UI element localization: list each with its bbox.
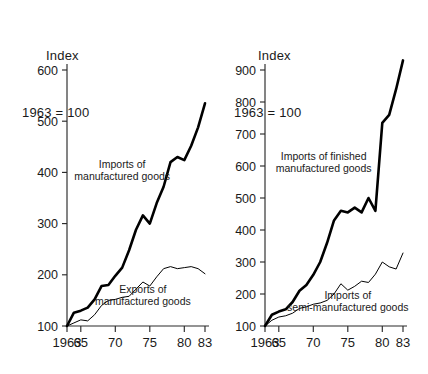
chart-right-svg: 1002003004005006007008009001963657075808… bbox=[214, 0, 428, 374]
y-tick-label: 900 bbox=[235, 64, 256, 78]
y-tick-label: 200 bbox=[37, 268, 58, 282]
x-tick-label: 75 bbox=[143, 335, 157, 350]
series-annotation: Exports ofmanufactured goods bbox=[95, 283, 191, 307]
series-annotation-line2: semi-manufactured goods bbox=[287, 301, 408, 313]
y-tick-label: 100 bbox=[235, 320, 256, 334]
x-tick-label: 83 bbox=[198, 335, 212, 350]
x-tick-label: 70 bbox=[306, 335, 320, 350]
x-tick-label: 65 bbox=[272, 335, 286, 350]
series-annotation: Imports ofsemi-manufactured goods bbox=[287, 289, 408, 313]
chart-left-plot: 10020030040050060019636570758083Imports … bbox=[0, 0, 214, 374]
series-annotation-line2: manufactured goods bbox=[74, 170, 170, 182]
series-line bbox=[265, 60, 403, 326]
series-annotation-line1: Exports of bbox=[119, 283, 166, 295]
x-tick-label: 80 bbox=[375, 335, 389, 350]
y-tick-label: 200 bbox=[235, 288, 256, 302]
y-tick-label: 400 bbox=[37, 166, 58, 180]
x-tick-label: 65 bbox=[74, 335, 88, 350]
chart-page: Index 1963 = 100 10020030040050060019636… bbox=[0, 0, 428, 374]
y-tick-label: 500 bbox=[37, 115, 58, 129]
series-annotation: Imports ofmanufactured goods bbox=[74, 158, 170, 182]
y-tick-label: 800 bbox=[235, 96, 256, 110]
x-tick-label: 80 bbox=[177, 335, 191, 350]
axis-lines bbox=[265, 64, 407, 326]
chart-panel-left: Index 1963 = 100 10020030040050060019636… bbox=[0, 0, 214, 374]
x-tick-label: 83 bbox=[396, 335, 410, 350]
series-annotation-line2: manufactured goods bbox=[276, 162, 372, 174]
chart-right-plot: 1002003004005006007008009001963657075808… bbox=[214, 0, 428, 374]
series-annotation-line2: manufactured goods bbox=[95, 295, 191, 307]
x-tick-label: 75 bbox=[341, 335, 355, 350]
y-tick-label: 100 bbox=[37, 320, 58, 334]
y-tick-label: 700 bbox=[235, 128, 256, 142]
series-annotation-line1: Imports of finished bbox=[281, 150, 367, 162]
y-tick-label: 400 bbox=[235, 224, 256, 238]
chart-panel-right: Index 1963 = 100 10020030040050060070080… bbox=[214, 0, 428, 374]
chart-left-svg: 10020030040050060019636570758083Imports … bbox=[0, 0, 214, 374]
y-tick-label: 500 bbox=[235, 192, 256, 206]
series-annotation-line1: Imports of bbox=[99, 158, 146, 170]
series-annotation: Imports of finishedmanufactured goods bbox=[276, 150, 372, 174]
series-annotation-line1: Imports of bbox=[324, 289, 371, 301]
y-tick-label: 300 bbox=[235, 256, 256, 270]
y-tick-label: 600 bbox=[37, 64, 58, 78]
y-tick-label: 300 bbox=[37, 217, 58, 231]
y-tick-label: 600 bbox=[235, 160, 256, 174]
x-tick-label: 70 bbox=[108, 335, 122, 350]
